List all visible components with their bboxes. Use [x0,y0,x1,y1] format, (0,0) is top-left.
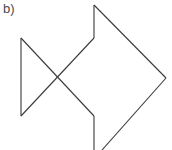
body-upper-diagonal-edge [94,5,166,78]
line-drawing-figure [0,0,172,150]
figure-canvas: b) [0,0,172,150]
body-lower-diagonal-edge [102,78,166,150]
